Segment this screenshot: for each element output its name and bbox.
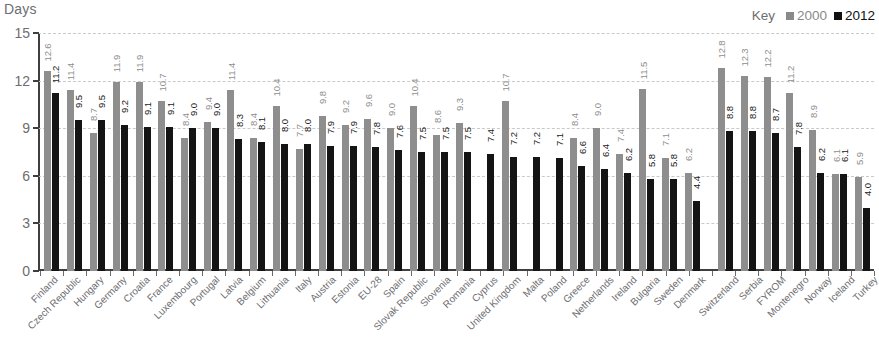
bar-fill — [502, 101, 509, 271]
bar-group: 9.07.6 — [383, 33, 406, 271]
bar-group: 11.48.3 — [223, 33, 246, 271]
bar-value-label: 7.9 — [325, 121, 336, 134]
bar-value-label: 9.1 — [142, 102, 153, 115]
bar-value-label: 7.2 — [508, 132, 519, 145]
bar-value-label: 11.2 — [784, 66, 795, 83]
bar-fill — [840, 174, 847, 271]
bar-value-label: 9.5 — [73, 95, 84, 108]
bar-value-label: 6.4 — [599, 145, 610, 158]
bar-value-label: 6.2 — [683, 148, 694, 161]
bar-fill — [786, 93, 793, 271]
bar-value-label: 9.5 — [96, 95, 107, 108]
bar-value-label: 12.2 — [762, 50, 773, 68]
bar-group: 9.67.8 — [360, 33, 383, 271]
bar-value-label: 12.3 — [739, 48, 750, 66]
bar-fill — [533, 157, 540, 271]
bar-fill — [44, 71, 51, 271]
bar-fill — [817, 173, 824, 271]
bar-value-label: 8.1 — [256, 118, 267, 131]
bar-group: 7.46.2 — [612, 33, 635, 271]
bar-group: 11.49.5 — [63, 33, 86, 271]
bar-fill — [204, 122, 211, 271]
y-axis-tick — [33, 80, 39, 82]
bar-group: 11.99.2 — [109, 33, 132, 271]
bar-fill — [387, 128, 394, 271]
bar-fill — [52, 93, 59, 271]
bar-value-label: 11.9 — [111, 55, 122, 72]
bar-fill — [75, 120, 82, 271]
bar-fill — [794, 147, 801, 271]
bar-fill — [487, 154, 494, 271]
bar-value-label: 11.4 — [65, 63, 76, 80]
bar-fill — [578, 166, 585, 271]
bar-value-label: 7.4 — [614, 129, 625, 142]
bar-value-label: 9.1 — [164, 102, 175, 115]
bar-fill — [342, 125, 349, 271]
bar-fill — [433, 135, 440, 271]
bar-group: 12.88.8 — [714, 33, 737, 271]
y-axis-tick — [33, 32, 39, 34]
bar-value-label: 6.2 — [815, 148, 826, 161]
bar-fill — [90, 133, 97, 271]
bar-group: 10.79.1 — [154, 33, 177, 271]
bar-fill — [418, 152, 425, 271]
bar-group: 6.16.1 — [828, 33, 851, 271]
bar-group: 9.37.5 — [452, 33, 475, 271]
bar-fill — [364, 119, 371, 271]
bar-group: 8.67.5 — [429, 33, 452, 271]
legend-label-2000: 2000 — [797, 8, 827, 23]
y-axis-tick-label: 6 — [22, 168, 30, 184]
bar-group: 10.77.2 — [498, 33, 521, 271]
bar-value-label: 7.5 — [416, 127, 427, 140]
bar-value-label: 8.3 — [233, 114, 244, 127]
bar-group: 8.79.5 — [86, 33, 109, 271]
bar-value-label: 11.2 — [50, 66, 61, 83]
bar-fill — [235, 139, 242, 271]
bar-value-label: 8.6 — [431, 110, 442, 123]
y-axis-tick — [33, 270, 39, 272]
bar-fill — [98, 120, 105, 271]
bar-value-label: 5.8 — [645, 154, 656, 167]
bar-fill — [441, 152, 448, 271]
bar-value-label: 9.3 — [454, 98, 465, 111]
chart-legend: Key 2000 2012 — [752, 8, 875, 23]
bar-group: 7.78.0 — [292, 33, 315, 271]
bar-fill — [670, 179, 677, 271]
bar-fill — [772, 133, 779, 271]
y-axis-tick — [33, 175, 39, 177]
bar-fill — [181, 138, 188, 271]
bar-fill — [258, 142, 265, 271]
bar-fill — [166, 127, 173, 271]
bar-value-label: 5.8 — [668, 154, 679, 167]
bar-value-label: 11.4 — [225, 63, 236, 80]
bar-fill — [296, 149, 303, 271]
bar-fill — [319, 116, 326, 271]
bar-value-label: 9.6 — [362, 94, 373, 107]
bar-group: 11.27.8 — [783, 33, 806, 271]
bar-group: 10.48.0 — [269, 33, 292, 271]
bar-value-label: 7.6 — [393, 125, 404, 138]
bar-fill — [749, 131, 756, 271]
bar-value-label: 7.1 — [554, 133, 565, 146]
bar-fill — [121, 125, 128, 271]
bar-group: 8.46.6 — [566, 33, 589, 271]
bar-fill — [144, 127, 151, 271]
bar-value-label: 8.0 — [302, 119, 313, 132]
bar-fill — [601, 169, 608, 271]
y-axis-tick-label: 3 — [22, 215, 30, 231]
bar-group: 12.38.8 — [737, 33, 760, 271]
bar-fill — [464, 152, 471, 271]
bar-fill — [350, 146, 357, 271]
bar-group: 9.06.4 — [589, 33, 612, 271]
bar-value-label: 6.1 — [838, 149, 849, 162]
bar-group: 9.27.9 — [338, 33, 361, 271]
bar-fill — [616, 154, 623, 271]
bar-group: 7.4 — [475, 33, 498, 271]
bar-fill — [456, 123, 463, 271]
bar-value-label: 12.8 — [716, 40, 727, 58]
bar-value-label: 4.4 — [691, 176, 702, 189]
bar-group: 7.1 — [544, 33, 567, 271]
bar-group: 11.55.8 — [635, 33, 658, 271]
bar-value-label: 11.9 — [134, 55, 145, 72]
bar-group: 8.48.1 — [246, 33, 269, 271]
